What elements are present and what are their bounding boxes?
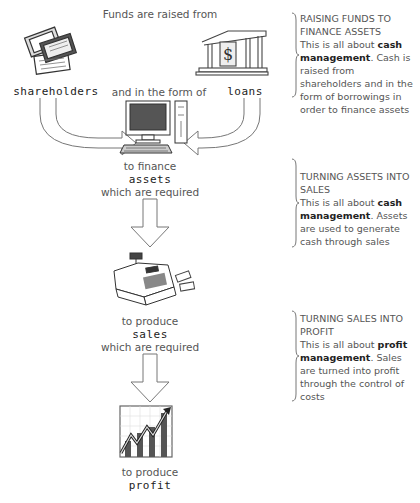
note-heading: TURNING SALES INTO PROFIT [300,312,418,338]
svg-text:$: $ [223,45,233,64]
profit-label: profit [110,479,190,492]
cash-register-icon [108,253,198,305]
note-heading: TURNING ASSETS INTO SALES [300,170,418,196]
note-turning-assets: TURNING ASSETS INTO SALES This is all ab… [300,170,418,248]
note-raising-funds: RAISING FUNDS TO FINANCE ASSETS This is … [300,12,418,116]
assets-label: assets [110,173,190,186]
brace-3 [290,310,300,402]
bank-building-icon: $ [198,28,268,78]
note-turning-sales: TURNING SALES INTO PROFIT This is all ab… [300,312,418,403]
brace-1 [290,12,300,98]
which-required-label-2: which are required [95,341,205,353]
down-arrow-1 [128,199,172,249]
curved-arrow-right [188,98,268,158]
desktop-computer-icon [118,97,190,157]
rising-bar-chart-icon [119,405,175,459]
share-certificates-icon [20,24,80,74]
to-produce-label-2: to produce [110,466,190,478]
loans-label: loans [222,85,268,98]
brace-2 [290,158,300,248]
note-heading: RAISING FUNDS TO FINANCE ASSETS [300,12,418,38]
which-required-label-1: which are required [95,186,205,198]
shareholders-label: shareholders [10,85,102,98]
down-arrow-2 [128,354,172,404]
curved-arrow-left [40,98,120,158]
sales-label: sales [110,328,190,341]
to-finance-label: to finance [110,160,190,172]
to-produce-label-1: to produce [110,315,190,327]
funds-raised-label: Funds are raised from [95,8,225,20]
